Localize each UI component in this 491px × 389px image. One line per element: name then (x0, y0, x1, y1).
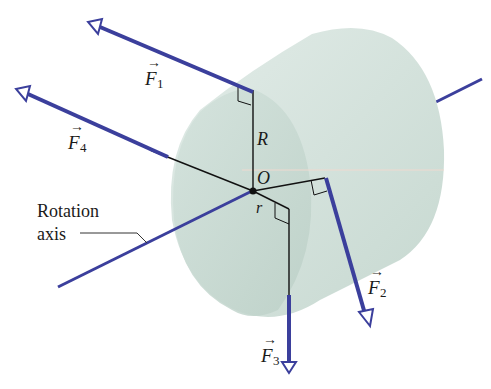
label-rotation-axis-line1: Rotation (37, 201, 99, 221)
svg-text:3: 3 (273, 353, 280, 368)
label-F2: → F 2 (367, 264, 387, 300)
label-F3: → F 3 (260, 332, 280, 368)
svg-text:F: F (367, 277, 380, 298)
label-F4: → F 4 (67, 119, 87, 155)
origin-point (250, 188, 257, 195)
force-F4-arrowhead (16, 86, 30, 101)
label-r: r (256, 199, 263, 216)
svg-text:F: F (260, 345, 273, 366)
svg-text:2: 2 (380, 285, 387, 300)
force-F3-arrowhead (282, 362, 296, 373)
force-F1-arrowhead (88, 19, 102, 34)
svg-text:4: 4 (80, 140, 87, 155)
force-F4-arrow (28, 94, 168, 157)
label-rotation-axis-line2: axis (37, 224, 66, 244)
label-R: R (256, 129, 268, 149)
force-F1-arrow (100, 27, 253, 92)
cylinder-force-diagram: → F 1 → F 4 → F 2 → F 3 R O r Rotation a… (0, 0, 491, 389)
cylinder-front-face (173, 88, 311, 316)
label-F1: → F 1 (144, 55, 164, 91)
rotation-axis-back (436, 79, 482, 102)
svg-text:F: F (67, 132, 80, 153)
svg-text:F: F (144, 68, 157, 89)
rotation-axis-leader (80, 233, 147, 243)
svg-text:1: 1 (157, 76, 164, 91)
force-F2-arrowhead (359, 309, 373, 326)
label-O: O (257, 168, 270, 188)
